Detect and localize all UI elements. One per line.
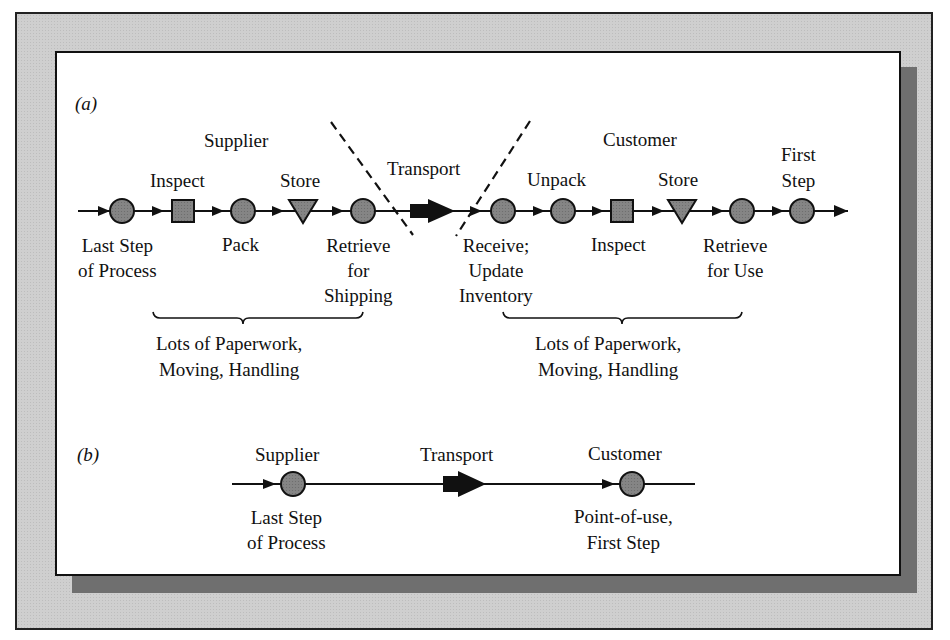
b-customer-label-line1: Point-of-use, <box>574 504 673 530</box>
label-retrieve-use-line2: for Use <box>703 258 767 283</box>
label-inspect: Inspect <box>150 169 205 192</box>
label-unpack: Unpack <box>527 168 586 191</box>
label-last-step-line2: of Process <box>78 258 157 283</box>
label-receive-line3: Inventory <box>459 283 533 308</box>
label-retrieve-shipping: Retrieve for Shipping <box>324 233 393 308</box>
transport-label: Transport <box>387 157 460 180</box>
customer-note-line2: Moving, Handling <box>535 357 681 383</box>
label-retrieve-line2: for <box>324 258 393 283</box>
b-customer-label-line2: First Step <box>574 530 673 556</box>
panel-a-tag: (a) <box>75 92 97 115</box>
transport-arrow-icon <box>410 199 455 223</box>
supplier-note-line1: Lots of Paperwork, <box>156 331 302 357</box>
label-last-step-line1: Last Step <box>78 233 157 258</box>
supplier-heading: Supplier <box>204 129 268 152</box>
node-last-step-circle <box>110 199 134 223</box>
node-unpack-circle <box>551 199 575 223</box>
panel-b-tag: (b) <box>77 443 99 466</box>
label-first-step-line1: First <box>781 142 816 168</box>
customer-brace-note: Lots of Paperwork, Moving, Handling <box>535 331 681 383</box>
label-retrieve-line3: Shipping <box>324 283 393 308</box>
b-customer-label: Point-of-use, First Step <box>574 504 673 556</box>
b-supplier-heading: Supplier <box>255 443 319 466</box>
b-supplier-label: Last Step of Process <box>247 505 326 555</box>
panel-a-flow <box>78 199 848 223</box>
transport-arrow-icon-b <box>443 471 486 497</box>
label-receive: Receive; Update Inventory <box>459 233 533 308</box>
node-retrieve-circle <box>351 199 375 223</box>
node-retrieve-use-circle <box>730 199 754 223</box>
customer-note-line1: Lots of Paperwork, <box>535 331 681 357</box>
label-inspect-customer: Inspect <box>591 233 646 256</box>
b-supplier-label-line2: of Process <box>247 530 326 555</box>
label-store-customer: Store <box>658 168 698 191</box>
node-receive-circle <box>491 199 515 223</box>
b-transport-label: Transport <box>420 443 493 466</box>
customer-heading: Customer <box>603 128 677 151</box>
label-receive-line2: Update <box>459 258 533 283</box>
node-first-step-circle <box>790 199 814 223</box>
label-retrieve-line1: Retrieve <box>324 233 393 258</box>
customer-brace <box>503 312 742 324</box>
node-pack-circle <box>231 199 255 223</box>
label-receive-line1: Receive; <box>459 233 533 258</box>
label-store: Store <box>280 169 320 192</box>
label-first-step-line2: Step <box>781 168 816 194</box>
node-inspect-square-customer <box>611 200 633 222</box>
label-retrieve-use-line1: Retrieve <box>703 233 767 258</box>
supplier-brace-note: Lots of Paperwork, Moving, Handling <box>156 331 302 383</box>
node-b-supplier-circle <box>281 472 305 496</box>
label-retrieve-use: Retrieve for Use <box>703 233 767 283</box>
panel-b-flow <box>232 471 695 497</box>
label-last-step: Last Step of Process <box>78 233 157 283</box>
flow-diagram <box>0 0 950 640</box>
supplier-brace <box>153 312 363 324</box>
node-b-customer-circle <box>620 472 644 496</box>
label-first-step: First Step <box>781 142 816 194</box>
node-inspect-square <box>172 200 194 222</box>
b-customer-heading: Customer <box>588 442 662 465</box>
b-supplier-label-line1: Last Step <box>247 505 326 530</box>
label-pack: Pack <box>222 233 259 256</box>
supplier-note-line2: Moving, Handling <box>156 357 302 383</box>
